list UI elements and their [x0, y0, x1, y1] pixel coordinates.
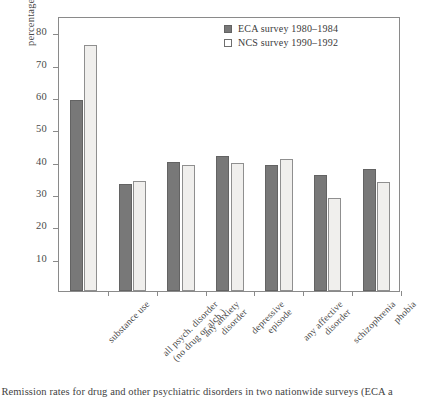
legend-label-eca: ECA survey 1980–1984: [238, 23, 338, 34]
legend-swatch-icon-ncs: [224, 39, 232, 47]
bar-ncs: [328, 198, 341, 291]
x-axis-category-label: substance use: [106, 299, 152, 345]
bar-group: [352, 18, 401, 291]
bar-ncs: [133, 181, 146, 291]
legend-swatch-icon-eca: [224, 25, 232, 33]
y-axis-tick-label: 40: [0, 156, 47, 167]
bar-group: [108, 18, 157, 291]
bar-eca: [167, 162, 180, 291]
bar-eca: [363, 169, 376, 291]
bar-ncs: [84, 45, 97, 291]
x-axis-category-label: phobia: [391, 299, 418, 326]
bar-ncs: [280, 159, 293, 291]
x-axis-tick: [206, 291, 207, 296]
x-axis-category-label: schizophrenia: [351, 299, 398, 346]
figure-caption: e Remission rates for drug and other psy…: [0, 386, 421, 397]
x-axis-tick: [303, 291, 304, 296]
bar-group: [157, 18, 206, 291]
legend-label-ncs: NCS survey 1990–1992: [238, 37, 338, 48]
x-axis-tick: [254, 291, 255, 296]
x-axis-category-label: any affectivedisorder: [301, 299, 353, 351]
y-axis-label: percentage of cases remitted: [25, 0, 36, 46]
y-axis-tick-label: 30: [0, 188, 47, 199]
y-axis-tick-label: 20: [0, 220, 47, 231]
legend-item-eca: ECA survey 1980–1984: [224, 23, 338, 34]
bar-ncs: [231, 163, 244, 291]
plot-frame: percentage of cases remitted: [58, 17, 400, 292]
bar-group: [206, 18, 255, 291]
y-axis-tick-label: 50: [0, 123, 47, 134]
y-axis-tick-label: 80: [0, 26, 47, 37]
x-axis-tick: [108, 291, 109, 296]
bar-eca: [265, 165, 278, 291]
x-axis-tick: [352, 291, 353, 296]
x-axis-category-label: depressiveepisode: [249, 299, 294, 344]
legend-item-ncs: NCS survey 1990–1992: [224, 37, 338, 48]
bar-eca: [70, 100, 83, 291]
y-axis-tick-label: 10: [0, 253, 47, 264]
bar-group: [59, 18, 108, 291]
legend: ECA survey 1980–1984 NCS survey 1990–199…: [224, 23, 338, 51]
x-axis-tick: [401, 291, 402, 296]
y-axis-tick-label: 70: [0, 59, 47, 70]
bar-ncs: [182, 165, 195, 291]
bar-eca: [314, 175, 327, 291]
bar-group: [254, 18, 303, 291]
x-axis-tick: [157, 291, 158, 296]
plot-area: [59, 18, 399, 291]
bar-eca: [216, 156, 229, 291]
bar-group: [303, 18, 352, 291]
bar-eca: [119, 184, 132, 291]
y-axis-tick-label: 60: [0, 91, 47, 102]
bar-ncs: [377, 182, 390, 291]
